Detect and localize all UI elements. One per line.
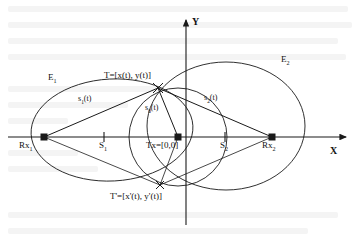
- label-tx: Tx=[0,0]: [146, 141, 178, 150]
- label-axis-y: Y: [192, 17, 199, 27]
- figure-canvas: E1 E2 s1(t) s2(t) s0(t) Rx1 Rx2 Tx=[0,0]…: [0, 0, 359, 238]
- label-rx2: Rx2: [262, 141, 276, 152]
- label-axis-x: X: [330, 146, 337, 156]
- marker-rx1: [41, 134, 48, 141]
- label-segment-s2: s2(t): [204, 94, 217, 104]
- label-rx1: Rx1: [19, 141, 33, 152]
- label-target: T=[x(t), y(t)]: [104, 71, 151, 80]
- segment-s1: [44, 88, 158, 137]
- label-ellipse-e2: E2: [281, 55, 290, 66]
- label-tick-s1: S1: [99, 141, 107, 152]
- label-segment-s0: s0(t): [145, 104, 158, 114]
- label-segment-s1: s1(t): [78, 95, 91, 105]
- label-target-mirror: T'=[x'(t), y'(t)]: [110, 192, 162, 201]
- ellipse-e1: [28, 75, 195, 185]
- label-tick-s2: S2: [220, 141, 228, 152]
- diagram-svg: [0, 0, 359, 238]
- label-ellipse-e1: E1: [48, 73, 57, 84]
